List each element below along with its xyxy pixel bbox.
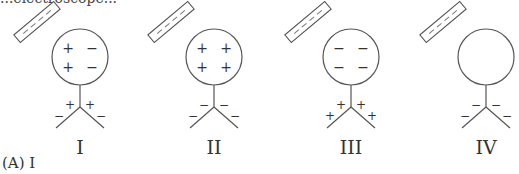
sphere-charge: +	[62, 59, 74, 75]
sphere-charge: −	[357, 59, 369, 75]
charged-rod	[14, 1, 60, 42]
electroscope-4: −−−−IV	[420, 1, 514, 158]
sphere-charge: +	[220, 59, 232, 75]
leaf-charge: +	[356, 98, 366, 112]
sphere-charge: −	[333, 40, 345, 56]
leaf-charge: −	[460, 109, 470, 123]
sphere-charge: −	[357, 40, 369, 56]
sphere	[52, 29, 108, 85]
electroscope-1: +−+−++−−I	[14, 1, 108, 158]
leaf-charge: +	[336, 98, 346, 112]
charged-rod	[285, 1, 331, 42]
diagram-label: III	[340, 136, 363, 158]
leaf-charge: −	[230, 109, 240, 123]
rod-body	[14, 1, 60, 42]
leaf-charge: −	[219, 98, 229, 112]
charged-rod	[148, 1, 194, 42]
leaf-charge: −	[54, 109, 64, 123]
sphere-charge: +	[62, 40, 74, 56]
sphere-charge: +	[196, 59, 208, 75]
electroscope-2: ++++−−−−II	[148, 1, 242, 158]
sphere	[458, 29, 514, 85]
leaf-charge: −	[96, 109, 106, 123]
diagram-label: I	[76, 136, 84, 158]
sphere-charge: −	[86, 40, 98, 56]
leaf-charge: +	[65, 98, 75, 112]
sphere-charge: +	[196, 40, 208, 56]
leaf-charge: −	[199, 98, 209, 112]
leaf-charge: −	[188, 109, 198, 123]
leaf-charge: +	[85, 98, 95, 112]
sphere-charge: −	[86, 59, 98, 75]
leaf-charge: −	[491, 98, 501, 112]
sphere	[323, 29, 379, 85]
charged-rod	[420, 1, 466, 42]
leaf-charge: −	[502, 109, 512, 123]
rod-body	[285, 1, 331, 42]
electroscope-3: −−−−++++III	[285, 1, 379, 158]
leaf-charge: +	[325, 109, 335, 123]
electroscope-diagrams: +−+−++−−I++++−−−−II−−−−++++III−−−−IV	[0, 0, 519, 160]
leaf-charge: −	[471, 98, 481, 112]
sphere-charge: +	[220, 40, 232, 56]
diagram-label: IV	[475, 136, 497, 158]
answer-choice-a[interactable]: (A) I	[2, 154, 35, 172]
sphere	[186, 29, 242, 85]
leaf-charge: +	[367, 109, 377, 123]
diagram-label: II	[206, 136, 221, 158]
rod-body	[420, 1, 466, 42]
rod-body	[148, 1, 194, 42]
sphere-charge: −	[333, 59, 345, 75]
